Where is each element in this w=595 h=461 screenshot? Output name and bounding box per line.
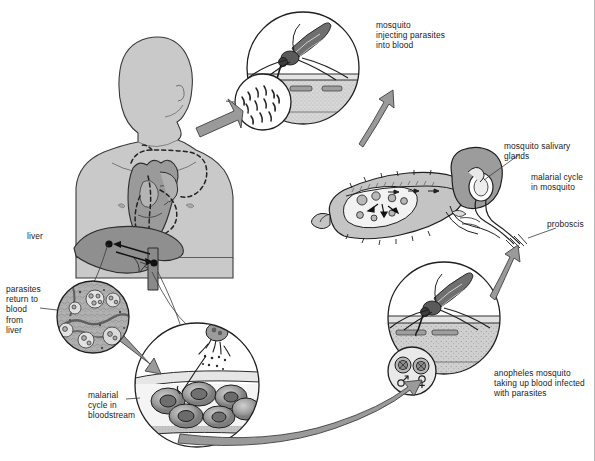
bloodstream-inset xyxy=(126,323,260,447)
liver-tissue-inset xyxy=(40,281,129,353)
anopheles-mosquito-anatomy xyxy=(311,147,556,250)
label-mosquito-injecting-parasites-into-blood: mosquito injecting parasites into blood xyxy=(376,20,445,51)
label-mosquito-salivary-glands: mosquito salivary glands xyxy=(504,141,570,161)
label-malarial-cycle-in-mosquito: malarial cycle in mosquito xyxy=(531,172,583,192)
label-parasites-return-to-blood-from-liver: parasites return to blood from liver xyxy=(6,284,41,335)
malaria-life-cycle-figure: liver parasites return to blood from liv… xyxy=(0,0,595,461)
label-liver: liver xyxy=(27,231,43,241)
arrow-to-bite xyxy=(359,90,394,147)
label-anopheles-mosquito-taking-up-blood: anopheles mosquito taking up blood infec… xyxy=(494,368,585,399)
label-malarial-cycle-in-bloodstream: malarial cycle in bloodstream xyxy=(88,390,135,421)
arrow-to-proboscis xyxy=(490,245,520,300)
label-proboscis: proboscis xyxy=(547,219,584,229)
